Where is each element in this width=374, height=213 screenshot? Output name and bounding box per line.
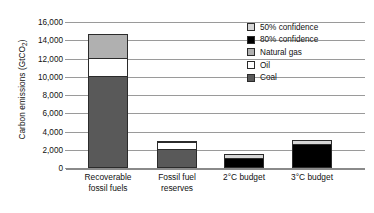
y-axis-tick-label: 2,000 bbox=[5, 145, 63, 154]
bar-segment-80-confidence bbox=[225, 159, 263, 167]
legend-swatch-icon bbox=[247, 23, 255, 31]
y-axis-tick-label: 8,000 bbox=[5, 91, 63, 100]
carbon-emissions-bar-chart: Carbon emissions (GtCO2) 16,00014,00012,… bbox=[0, 0, 374, 213]
legend-label: 80% confidence bbox=[260, 35, 318, 44]
y-axis-tick-label: 12,000 bbox=[5, 54, 63, 63]
legend-item: 80% confidence bbox=[247, 34, 369, 47]
x-axis-baseline bbox=[66, 168, 365, 170]
legend-label: 50% confidence bbox=[260, 23, 318, 32]
legend-swatch-icon bbox=[247, 36, 255, 44]
y-axis-tick-label: 4,000 bbox=[5, 127, 63, 136]
legend-label: Oil bbox=[260, 61, 270, 70]
legend-item: 50% confidence bbox=[247, 21, 369, 34]
bar-4 bbox=[292, 140, 332, 168]
y-axis-tick-label: 16,000 bbox=[5, 18, 63, 27]
x-axis-label-4: 3°C budget bbox=[269, 172, 355, 183]
y-axis-tick-label: 6,000 bbox=[5, 109, 63, 118]
legend-label: Coal bbox=[260, 73, 277, 82]
bar-segment-oil bbox=[89, 59, 127, 77]
legend-item: Oil bbox=[247, 59, 369, 72]
bar-segment-natural-gas bbox=[89, 35, 127, 59]
legend-swatch-icon bbox=[247, 48, 255, 56]
x-axis-label-line: reserves bbox=[134, 183, 220, 194]
bar-segment-coal bbox=[89, 77, 127, 167]
y-axis-tick-label: 14,000 bbox=[5, 36, 63, 45]
x-axis-category-labels: Recoverablefossil fuelsFossil fuelreserv… bbox=[69, 172, 365, 206]
y-axis-tick-label: 0 bbox=[5, 164, 63, 173]
x-axis-label-line: 3°C budget bbox=[269, 172, 355, 183]
chart-legend: 50% confidence80% confidenceNatural gasO… bbox=[247, 21, 369, 84]
bar-segment-80-confidence bbox=[293, 145, 331, 167]
legend-item: Natural gas bbox=[247, 46, 369, 59]
legend-swatch-icon bbox=[247, 61, 255, 69]
bar-3 bbox=[224, 154, 264, 168]
legend-item: Coal bbox=[247, 71, 369, 84]
bar-2 bbox=[157, 141, 197, 168]
bar-segment-coal bbox=[158, 150, 196, 167]
bar-1 bbox=[88, 34, 128, 168]
legend-swatch-icon bbox=[247, 74, 255, 82]
y-axis-tick-label: 10,000 bbox=[5, 72, 63, 81]
bar-segment-oil bbox=[158, 143, 196, 150]
legend-label: Natural gas bbox=[260, 48, 302, 57]
